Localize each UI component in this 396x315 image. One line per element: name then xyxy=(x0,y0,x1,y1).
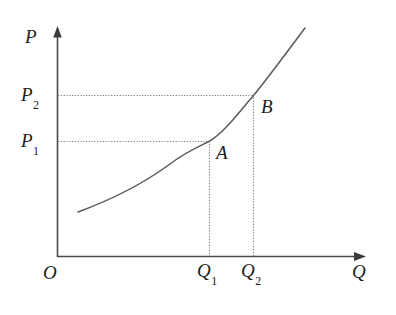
quantity-tick-q2-sub: 2 xyxy=(255,274,261,288)
quantity-tick-q2: Q2 xyxy=(241,261,261,280)
quantity-tick-q1: Q1 xyxy=(197,261,217,280)
price-tick-p2: P2 xyxy=(21,85,39,104)
quantity-tick-q1-sub: 1 xyxy=(211,274,217,288)
quantity-axis xyxy=(58,252,367,261)
price-axis-label: P xyxy=(25,27,37,46)
point-a-label: A xyxy=(216,143,228,162)
price-tick-p2-main: P xyxy=(21,84,33,105)
price-tick-p2-sub: 2 xyxy=(33,98,39,112)
quantity-tick-q1-main: Q xyxy=(197,260,211,281)
price-tick-p1-sub: 1 xyxy=(33,144,39,158)
quantity-tick-q2-main: Q xyxy=(241,260,255,281)
price-tick-p1: P1 xyxy=(21,131,39,150)
price-axis xyxy=(53,26,62,257)
supply-curve-figure: P Q O P2 P1 Q1 Q2 A B xyxy=(0,0,396,315)
quantity-axis-label: Q xyxy=(352,262,366,281)
supply-curve-path xyxy=(78,28,305,212)
point-b-label: B xyxy=(261,97,273,116)
price-tick-p1-main: P xyxy=(21,130,33,151)
origin-label: O xyxy=(43,263,57,282)
